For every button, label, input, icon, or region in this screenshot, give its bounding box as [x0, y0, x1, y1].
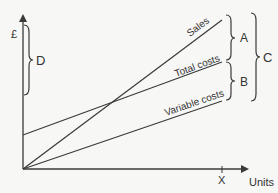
brace-a-label: A [240, 31, 248, 45]
sales-label: Sales [185, 15, 212, 39]
brace-b-label: B [240, 75, 248, 89]
brace-d-label: D [36, 53, 45, 68]
y-axis-label: £ [11, 28, 17, 40]
brace-a [226, 15, 235, 60]
sales-line [23, 20, 222, 169]
variable-costs-line [23, 101, 222, 169]
x-axis-label: Units [249, 176, 275, 188]
brace-b [226, 62, 235, 100]
total-costs-label: Total costs [173, 52, 221, 78]
break-even-diagram: Sales Total costs Variable costs D A B C… [0, 0, 278, 193]
brace-c [251, 13, 260, 101]
brace-c-label: C [263, 50, 272, 65]
x-marker-label: X [218, 174, 226, 186]
brace-d [24, 25, 33, 95]
